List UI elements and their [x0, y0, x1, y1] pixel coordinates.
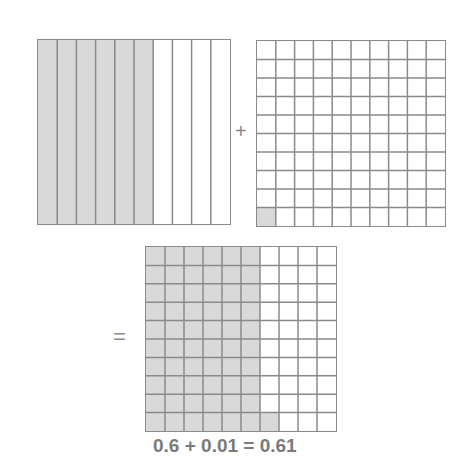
- equals-sign: =: [113, 324, 126, 350]
- tenths-grid: [37, 39, 231, 225]
- equation-label: 0.6 + 0.01 = 0.61: [153, 435, 297, 457]
- tenths-grid-drawing: [38, 40, 230, 224]
- hundredths-grid: [256, 40, 446, 227]
- hundredths-grid-drawing: [257, 41, 445, 226]
- sum-grid: [145, 246, 337, 432]
- sum-grid-drawing: [146, 247, 336, 431]
- plus-sign: +: [235, 120, 247, 143]
